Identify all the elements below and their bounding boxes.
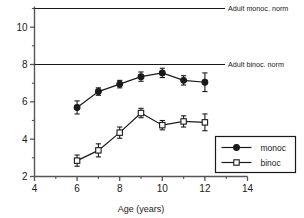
legend-marker-monoc [234,145,240,151]
x-axis-tick-label: 10 [157,183,169,194]
y-axis-tick-label: 8 [22,59,28,70]
reference-line-label: Adult binoc. norm [228,60,284,69]
y-axis-tick-label: 10 [16,22,28,33]
data-point-marker [96,148,101,153]
x-axis-tick-label: 14 [242,183,254,194]
data-point-marker [202,79,208,85]
data-point-marker [160,122,165,127]
legend-label-binoc: binoc [261,158,282,168]
x-axis-title: Age (years) [118,204,165,214]
legend-marker-binoc [234,160,239,165]
data-point-marker [138,110,143,115]
chart-container: 246810468101214Age (years)Adult monoc. n… [0,0,304,218]
data-point-marker [181,77,187,83]
x-axis-tick-label: 4 [32,183,38,194]
data-point-marker [159,70,165,76]
data-point-marker [74,105,80,111]
reference-line-label: Adult monoc. norm [228,4,288,13]
y-axis-tick-label: 2 [22,171,28,182]
data-series-binoc [74,108,207,166]
x-axis-tick-label: 8 [117,183,123,194]
y-axis-tick-label: 4 [22,134,28,145]
data-point-marker [181,119,186,124]
line-chart: 246810468101214Age (years)Adult monoc. n… [0,0,304,218]
y-axis-tick-label: 6 [22,96,28,107]
legend-label-monoc: monoc [261,143,287,153]
data-point-marker [74,158,79,163]
x-axis-tick-label: 12 [199,183,211,194]
data-series-monoc [74,68,208,114]
data-point-marker [117,130,122,135]
x-axis-tick-label: 6 [74,183,80,194]
data-point-marker [96,89,102,95]
data-point-marker [202,120,207,125]
data-point-marker [138,74,144,80]
data-point-marker [117,81,123,87]
